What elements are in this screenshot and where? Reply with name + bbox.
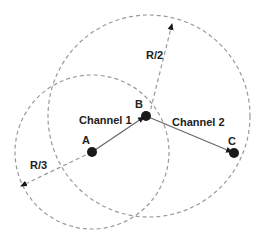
node-a-label: A — [82, 134, 90, 146]
node-b-label: B — [135, 98, 143, 110]
node-c-label: C — [228, 135, 236, 147]
range-r3-label: R/3 — [30, 159, 47, 171]
diagram-canvas: A B C Channel 1 Channel 2 R/2 R/3 — [0, 0, 263, 240]
node-a — [87, 147, 97, 157]
channel-2-label: Channel 2 — [172, 116, 225, 128]
channel-1-label: Channel 1 — [79, 114, 132, 126]
node-c — [229, 148, 239, 158]
range-r2-label: R/2 — [146, 49, 163, 61]
node-b — [141, 111, 151, 121]
radius-arrow-r2 — [149, 24, 172, 116]
